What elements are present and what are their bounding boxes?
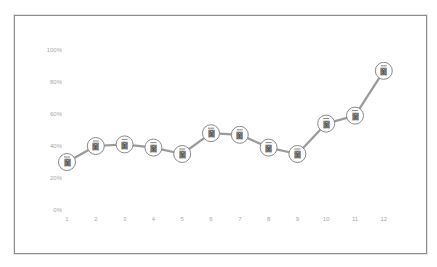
x-tick-label: 3	[123, 216, 127, 222]
data-point-marker[interactable]: 圙2: 40%	[87, 138, 104, 155]
data-point-marker[interactable]: 圙7: 47%	[231, 126, 248, 143]
x-tick-label: 11	[352, 216, 359, 222]
document-glyph-icon: 圙	[208, 129, 215, 138]
document-glyph-icon: 圙	[64, 158, 71, 167]
data-point-marker[interactable]: 圙9: 35%	[289, 146, 306, 163]
x-tick-label: 4	[152, 216, 156, 222]
x-tick-label: 6	[209, 216, 213, 222]
y-tick-label: 60%	[50, 111, 63, 117]
x-tick-label: 5	[181, 216, 185, 222]
data-point-marker[interactable]: 圙3: 41%	[116, 136, 133, 153]
document-glyph-icon: 圙	[294, 150, 301, 159]
line-chart: 0%20%40%60%80%100% 123456789101112 圙1: 3…	[0, 0, 437, 267]
series-markers: 圙1: 30%圙2: 40%圙3: 41%圙4: 39%圙5: 35%圙6: 4…	[59, 62, 393, 170]
document-glyph-icon: 圙	[92, 142, 99, 151]
document-glyph-icon: 圙	[150, 144, 157, 153]
data-point-marker[interactable]: 圙10: 54%	[318, 115, 335, 132]
x-tick-label: 2	[94, 216, 98, 222]
data-point-marker[interactable]: 圙1: 30%	[59, 154, 76, 171]
data-point-marker[interactable]: 圙8: 39%	[260, 139, 277, 156]
x-tick-label: 9	[296, 216, 300, 222]
y-tick-label: 20%	[50, 175, 63, 181]
data-point-marker[interactable]: 圙5: 35%	[174, 146, 191, 163]
y-tick-label: 0%	[53, 207, 62, 213]
series-line	[67, 71, 384, 162]
x-tick-label: 10	[323, 216, 330, 222]
document-glyph-icon: 圙	[179, 150, 186, 159]
y-tick-label: 40%	[50, 143, 63, 149]
document-glyph-icon: 圙	[236, 131, 243, 140]
data-point-marker[interactable]: 圙4: 39%	[145, 139, 162, 156]
data-point-marker[interactable]: 圙6: 48%	[203, 125, 220, 142]
series-line-path	[67, 71, 384, 162]
document-glyph-icon: 圙	[380, 67, 387, 76]
data-point-marker[interactable]: 圙12: 87%	[375, 62, 392, 79]
x-axis: 123456789101112	[65, 216, 387, 222]
x-tick-label: 8	[267, 216, 271, 222]
x-tick-label: 12	[380, 216, 387, 222]
y-axis: 0%20%40%60%80%100%	[47, 47, 63, 213]
document-glyph-icon: 圙	[121, 141, 128, 150]
document-glyph-icon: 圙	[265, 144, 272, 153]
data-point-marker[interactable]: 圙11: 59%	[347, 107, 364, 124]
y-tick-label: 80%	[50, 79, 63, 85]
x-tick-label: 1	[65, 216, 69, 222]
document-glyph-icon: 圙	[323, 120, 330, 129]
y-tick-label: 100%	[47, 47, 63, 53]
document-glyph-icon: 圙	[352, 112, 359, 121]
x-tick-label: 7	[238, 216, 242, 222]
